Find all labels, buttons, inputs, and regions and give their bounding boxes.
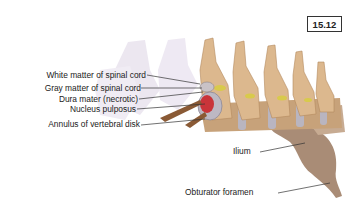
label-ilium: Ilium [233, 147, 251, 155]
spinal-cord-section [200, 82, 214, 92]
figure-number-badge: 15.12 [307, 16, 342, 32]
label-dura-mater: Dura mater (necrotic) [59, 95, 138, 103]
label-annulus: Annulus of vertebral disk [48, 120, 140, 128]
label-gray-matter: Gray matter of spinal cord [45, 84, 141, 92]
label-obturator-foramen: Obturator foramen [185, 188, 253, 196]
label-white-matter: White matter of spinal cord [46, 71, 146, 79]
label-nucleus-pulposus: Nucleus pulposus [70, 105, 136, 113]
pelvis-shape [270, 126, 342, 198]
anatomy-figure: 15.12 White matter of spinal cord Gray m… [0, 0, 362, 210]
